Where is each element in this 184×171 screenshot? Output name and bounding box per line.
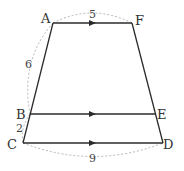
measure-ab: 6 xyxy=(25,58,32,71)
label-c: C xyxy=(7,137,17,152)
label-a: A xyxy=(40,11,51,26)
label-d: D xyxy=(163,137,173,152)
trapezoid-diagram: A F B E C D 5 6 2 9 xyxy=(0,0,184,171)
label-f: F xyxy=(135,13,144,28)
measure-bc: 2 xyxy=(16,122,23,135)
measure-cd: 9 xyxy=(89,152,96,165)
segment-ac xyxy=(23,23,53,143)
parallel-arrow-icon xyxy=(89,140,96,146)
segment-fd xyxy=(132,23,163,143)
measure-af: 5 xyxy=(89,8,96,21)
parallel-arrow-icon xyxy=(89,111,96,117)
label-b: B xyxy=(16,107,26,122)
label-e: E xyxy=(157,107,167,122)
